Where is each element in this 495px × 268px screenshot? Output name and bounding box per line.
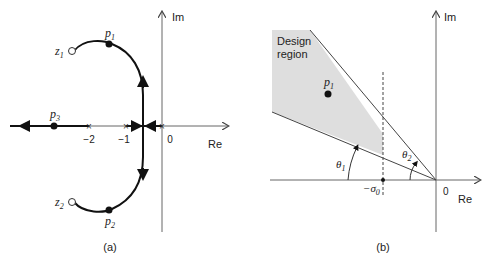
svg-text:z2: z2 bbox=[54, 195, 64, 211]
im-label-b: Im bbox=[444, 11, 456, 23]
svg-text:(b): (b) bbox=[376, 241, 389, 253]
svg-text:0: 0 bbox=[443, 186, 449, 197]
p2-label: p bbox=[104, 214, 111, 228]
p1-label: p bbox=[104, 26, 111, 40]
caption-a: (a) bbox=[103, 241, 116, 253]
svg-text:z1: z1 bbox=[54, 44, 64, 60]
zero-z1-icon bbox=[69, 48, 76, 55]
svg-text:p2: p2 bbox=[104, 214, 115, 230]
svg-text:−2: −2 bbox=[83, 134, 95, 145]
theta2-sub: 2 bbox=[407, 154, 411, 163]
p2-sub: 2 bbox=[111, 221, 115, 230]
im-label-a: Im bbox=[172, 11, 184, 23]
pole-p2-icon bbox=[106, 207, 113, 214]
svg-text:(a): (a) bbox=[103, 241, 116, 253]
sigma-point-icon bbox=[381, 178, 385, 182]
svg-text:−1: −1 bbox=[118, 134, 130, 145]
figure: × × × Im Re −2 −1 0 p1 z1 p3 z2 p2 (a) bbox=[0, 0, 495, 268]
theta1-arc bbox=[348, 147, 357, 180]
sigma-sub: 0 bbox=[376, 188, 380, 197]
theta1-sub: 1 bbox=[341, 164, 345, 173]
svg-text:−σ0: −σ0 bbox=[363, 182, 380, 197]
p3-label: p bbox=[49, 107, 56, 121]
design-region-panel-b: Im Re 0 Design region p1 −σ0 θ1 θ2 (b) bbox=[270, 11, 480, 253]
p1-sub-b: 1 bbox=[330, 82, 334, 91]
caption-b: (b) bbox=[376, 241, 389, 253]
tick-label: −1 bbox=[118, 134, 130, 145]
tick-label: 0 bbox=[167, 134, 173, 145]
zero-z2-icon bbox=[69, 199, 76, 206]
svg-text:Re: Re bbox=[458, 193, 472, 205]
re-label-a: Re bbox=[208, 138, 222, 150]
z1-sub: 1 bbox=[60, 51, 64, 60]
open-loop-pole-icon: × bbox=[86, 121, 92, 132]
svg-text:Im: Im bbox=[172, 11, 184, 23]
p3-sub: 3 bbox=[55, 114, 60, 123]
svg-text:p1: p1 bbox=[104, 26, 115, 42]
sigma-label: −σ bbox=[363, 182, 376, 194]
open-loop-pole-icon: × bbox=[123, 121, 129, 132]
region-label-line1: Design bbox=[277, 35, 311, 47]
root-locus-panel-a: × × × Im Re −2 −1 0 p1 z1 p3 z2 p2 (a) bbox=[10, 11, 228, 253]
svg-text:Design: Design bbox=[277, 35, 311, 47]
pole-p1-icon bbox=[325, 91, 332, 98]
svg-text:p3: p3 bbox=[49, 107, 60, 123]
origin-label: 0 bbox=[443, 186, 449, 197]
svg-text:Re: Re bbox=[208, 138, 222, 150]
svg-text:θ1: θ1 bbox=[336, 158, 345, 173]
svg-text:0: 0 bbox=[167, 134, 173, 145]
region-label-line2: region bbox=[277, 48, 308, 60]
re-label-b: Re bbox=[458, 193, 472, 205]
p1-label-b: p bbox=[323, 75, 330, 89]
p1-sub: 1 bbox=[111, 33, 115, 42]
tick-label: −2 bbox=[83, 134, 95, 145]
open-loop-pole-icon: × bbox=[159, 121, 165, 132]
z2-sub: 2 bbox=[60, 202, 64, 211]
svg-text:region: region bbox=[277, 48, 308, 60]
svg-text:Im: Im bbox=[444, 11, 456, 23]
pole-p3-icon bbox=[51, 123, 58, 130]
svg-text:θ2: θ2 bbox=[402, 148, 411, 163]
